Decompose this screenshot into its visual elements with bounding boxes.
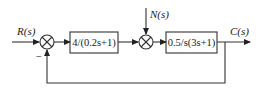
disturbance-label: N(s) [149, 8, 169, 21]
output-signal: C(s) [217, 25, 250, 42]
output-label: C(s) [230, 25, 249, 38]
input-label: R(s) [16, 25, 36, 38]
disturbance-signal: N(s) [146, 8, 169, 34]
block-diagram: R(s) − 4/(0.2s+1) N(s) 0.5/s(3s+1) C(s) [0, 0, 262, 92]
summing-junction-1: − [36, 35, 54, 62]
input-signal: R(s) [12, 25, 39, 42]
feedback-sign: − [36, 51, 42, 62]
feedback-path [47, 42, 225, 83]
block-g2-label: 0.5/s(3s+1) [168, 37, 216, 49]
summing-junction-2 [139, 35, 153, 49]
block-g1: 4/(0.2s+1) [70, 32, 118, 53]
block-g1-label: 4/(0.2s+1) [72, 37, 116, 49]
block-g2: 0.5/s(3s+1) [166, 32, 217, 53]
